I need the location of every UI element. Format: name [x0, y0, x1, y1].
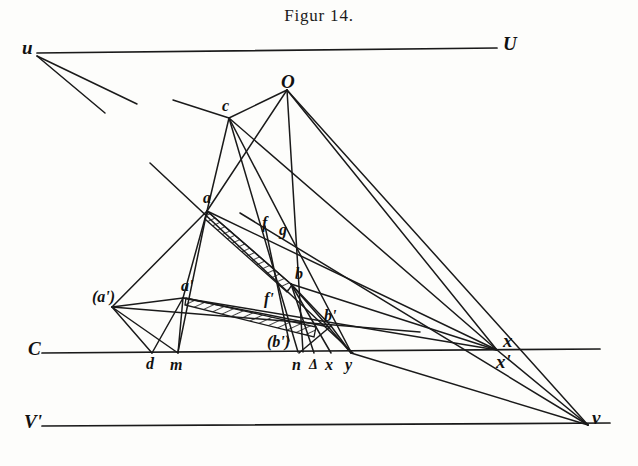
ray-O-to-v [287, 90, 588, 425]
point-label-C: C [28, 339, 41, 358]
point-label-aprime: a' [181, 278, 193, 294]
point-label-u: u [22, 38, 33, 57]
figure-page: Figur 14. uUOcafgba'(a')f'b'(b')dmnΔxyxx… [0, 0, 638, 466]
ray-bprime-to-y [331, 326, 351, 353]
point-label-U: U [503, 34, 517, 53]
point-label-c: c [222, 98, 229, 114]
ray-aprime-to-xvp [183, 298, 497, 350]
ray-O-to-xvp [287, 90, 497, 350]
point-label-a: a [203, 190, 211, 206]
reference-line-u-U-line [37, 48, 497, 53]
point-label-bparen: (b') [267, 334, 290, 350]
ray-y-to-v [351, 353, 588, 425]
point-label-f: f [262, 215, 267, 231]
horizontal-reference-lines-layer [37, 48, 610, 426]
point-label-xpvp: x' [496, 352, 511, 371]
point-label-d: d [146, 356, 154, 372]
point-label-y: y [345, 357, 352, 373]
point-label-Vp: V' [24, 412, 42, 431]
point-label-m: m [170, 357, 182, 373]
ray-aparen-to-m [112, 307, 178, 353]
point-label-bprime: b' [324, 308, 336, 324]
point-label-O: O [281, 72, 295, 91]
ray-O-to-a [207, 90, 287, 211]
point-label-g: g [279, 222, 287, 238]
point-label-b: b [295, 266, 303, 282]
ray-u-to-free1 [37, 56, 137, 104]
ray-c-upleft-to-c [173, 100, 229, 118]
point-label-delta: Δ [309, 358, 318, 372]
point-label-xvp: x [503, 331, 513, 350]
figure-drawing [0, 0, 638, 466]
ray-aparen-to-aprime [112, 298, 183, 307]
reference-line-C-line [42, 349, 600, 353]
point-label-xlow: x [325, 357, 333, 373]
point-label-fprime: f' [264, 291, 274, 307]
point-label-aparen: (a') [92, 289, 115, 305]
point-label-v: v [592, 408, 600, 427]
reference-line-V-prime-line [42, 423, 610, 426]
point-label-n: n [292, 357, 301, 373]
